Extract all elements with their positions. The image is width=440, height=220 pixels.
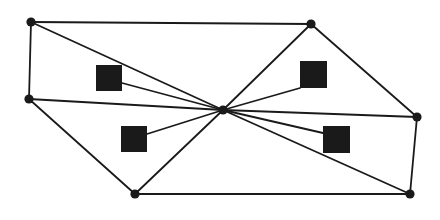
vertex-node — [412, 112, 421, 121]
block-node — [323, 126, 350, 153]
vertex-node — [405, 189, 414, 198]
block-node — [300, 61, 327, 88]
node-link-graph — [0, 0, 440, 220]
block-node — [121, 126, 147, 152]
block-node — [96, 65, 122, 91]
vertex-node — [218, 105, 227, 114]
vertex-node — [130, 189, 139, 198]
diagram-canvas — [0, 0, 440, 220]
vertex-node — [306, 19, 315, 28]
vertex-node — [26, 17, 35, 26]
vertex-node — [24, 94, 33, 103]
